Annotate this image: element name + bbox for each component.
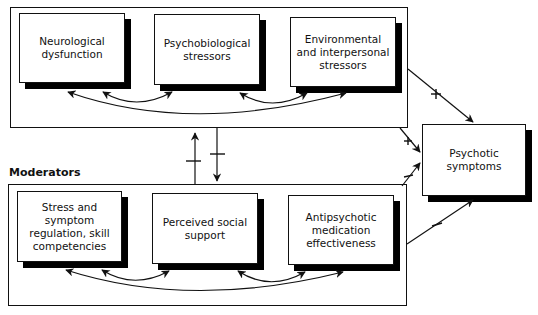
stress-regulation-box: Stress and symptom regulation, skill com… <box>17 191 122 262</box>
perceived-social-support-box: Perceived social support <box>152 193 258 264</box>
moderators-label: Moderators <box>9 166 80 179</box>
environmental-stressors-box: Environmental and interpersonal stressor… <box>290 17 396 87</box>
psychobiological-stressors-box: Psychobiological stressors <box>154 14 260 85</box>
neurological-dysfunction-box: Neurological dysfunction <box>19 13 125 83</box>
antipsychotic-medication-box: Antipsychotic medication effectiveness <box>288 195 394 265</box>
psychotic-symptoms-box: Psychotic symptoms <box>422 124 526 196</box>
